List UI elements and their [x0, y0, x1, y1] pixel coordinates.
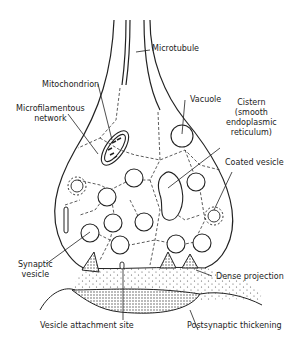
label-cistern: Cistern (smooth endoplasmic reticulum): [226, 98, 277, 138]
label-synaptic-vesicle: Synaptic vesicle: [18, 260, 53, 280]
synapse-diagram: [0, 0, 302, 347]
label-vesicle-attachment-site: Vesicle attachment site: [40, 321, 134, 331]
label-mitochondrion: Mitochondrion: [42, 80, 99, 90]
mitochondrion: [96, 126, 134, 169]
label-microfilamentous-network: Microfilamentous network: [16, 104, 85, 124]
synaptic-vesicles: [81, 125, 211, 254]
label-microtubule: Microtubule: [152, 44, 199, 54]
label-vacuole: Vacuole: [190, 95, 221, 105]
label-coated-vesicle: Coated vesicle: [225, 158, 284, 168]
label-dense-projection: Dense projection: [216, 272, 284, 282]
label-postsynaptic-thickening: Postsynaptic thickening: [187, 321, 282, 331]
postsynaptic-thickening: [72, 289, 200, 313]
